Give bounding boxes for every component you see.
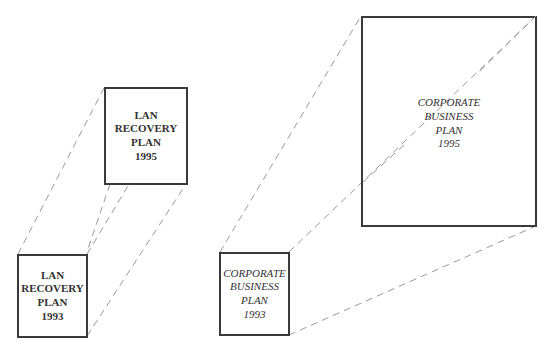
lan-recovery-plan-1993-box: LAN RECOVERY PLAN 1993 <box>17 254 88 338</box>
lan-recovery-plan-1995-box: LAN RECOVERY PLAN 1995 <box>104 87 188 185</box>
box-text-line: PLAN <box>241 294 268 308</box>
diagram-canvas: LAN RECOVERY PLAN 1995 LAN RECOVERY PLAN… <box>0 0 552 349</box>
connector-lan-inner <box>87 184 110 252</box>
box-text-line: LAN <box>134 109 157 123</box>
connector-cbp-top-left <box>220 16 361 252</box>
box-text-line: PLAN <box>38 296 68 310</box>
box-text-line: RECOVERY <box>21 282 84 296</box>
box-text-line: 1995 <box>438 137 460 151</box>
corporate-business-plan-1995-box: CORPORATE BUSINESS PLAN 1995 <box>361 16 537 227</box>
box-text-line: CORPORATE <box>418 96 481 110</box>
box-text-line: PLAN <box>436 124 463 138</box>
box-text-line: 1993 <box>244 308 266 322</box>
box-text-line: 1993 <box>42 310 64 324</box>
corporate-business-plan-1993-box: CORPORATE BUSINESS PLAN 1993 <box>219 252 290 336</box>
box-text-line: 1995 <box>135 150 157 164</box>
connector-cbp-bottom-right <box>289 226 536 335</box>
box-text-line: LAN <box>41 269 64 283</box>
box-text-line: CORPORATE <box>223 267 286 281</box>
connector-lan-top-left <box>18 88 104 254</box>
box-text-line: BUSINESS <box>230 280 279 294</box>
box-text-line: PLAN <box>131 136 161 150</box>
box-text-line: BUSINESS <box>425 110 474 124</box>
box-text-line: RECOVERY <box>115 122 178 136</box>
